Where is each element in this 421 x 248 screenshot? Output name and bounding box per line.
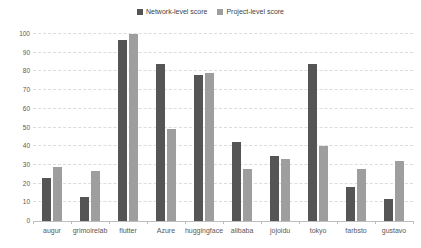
y-axis-tick-label-20: 20 [0, 181, 30, 188]
bar-augur-network [42, 178, 51, 221]
bar-grimoirelab-network [80, 197, 89, 221]
bar-augur-project [53, 167, 62, 221]
x-axis-tick-mark [147, 221, 148, 224]
bar-Azure-network [156, 64, 165, 221]
bar-series-container [33, 34, 413, 221]
x-axis-tick-mark [261, 221, 262, 224]
x-axis-category-label-Azure: Azure [147, 227, 185, 234]
x-axis-category-label-alibaba: alibaba [223, 227, 261, 234]
bar-group-Azure [147, 34, 185, 221]
x-axis-tick-mark [299, 221, 300, 224]
bar-farbsto-project [357, 169, 366, 221]
bar-tokyo-network [308, 64, 317, 221]
bar-group-tokyo [299, 34, 337, 221]
x-axis-category-label-grimoirelab: grimoirelab [71, 227, 109, 234]
bar-group-gustavo [375, 34, 413, 221]
bar-group-grimoirelab [71, 34, 109, 221]
x-axis-category-label-flutter: flutter [109, 227, 147, 234]
x-axis-category-label-augur: augur [33, 227, 71, 234]
legend-item-network-level: Network-level score [137, 8, 207, 15]
bar-grimoirelab-project [91, 171, 100, 221]
y-axis-tick-label-10: 10 [0, 199, 30, 206]
y-axis-tick-label-70: 70 [0, 87, 30, 94]
network-level-series-swatch-icon [137, 9, 143, 15]
x-axis-tick-mark [185, 221, 186, 224]
x-axis-category-label-tokyo: tokyo [299, 227, 337, 234]
bar-jojoidu-network [270, 156, 279, 221]
plot-area [33, 34, 413, 221]
legend-label-network-level: Network-level score [146, 8, 207, 15]
x-axis-labels: augurgrimoirelabflutterAzurehuggingfacea… [33, 227, 413, 234]
bar-huggingface-network [194, 75, 203, 221]
legend-label-project-level: Project-level score [226, 8, 284, 15]
bar-alibaba-project [243, 169, 252, 221]
bar-group-huggingface [185, 34, 223, 221]
bar-alibaba-network [232, 142, 241, 221]
bar-group-alibaba [223, 34, 261, 221]
bar-group-farbsto [337, 34, 375, 221]
project-level-series-swatch-icon [217, 9, 223, 15]
bar-gustavo-project [395, 161, 404, 221]
y-axis-tick-label-30: 30 [0, 162, 30, 169]
legend-item-project-level: Project-level score [217, 8, 284, 15]
x-axis-tick-mark [413, 221, 414, 224]
chart-legend: Network-level score Project-level score [0, 8, 421, 15]
bar-tokyo-project [319, 146, 328, 221]
x-axis-tick-mark [375, 221, 376, 224]
y-axis-tick-label-40: 40 [0, 143, 30, 150]
bar-chart: Network-level score Project-level score … [0, 0, 421, 248]
bar-flutter-project [129, 34, 138, 221]
y-axis-tick-label-100: 100 [0, 31, 30, 38]
x-axis-tick-mark [337, 221, 338, 224]
x-axis-category-label-jojoidu: jojoidu [261, 227, 299, 234]
x-axis-tick-mark [223, 221, 224, 224]
x-axis-tick-mark [33, 221, 34, 224]
y-axis-tick-label-60: 60 [0, 106, 30, 113]
bar-group-jojoidu [261, 34, 299, 221]
bar-flutter-network [118, 40, 127, 221]
bar-jojoidu-project [281, 159, 290, 221]
y-axis-tick-label-90: 90 [0, 50, 30, 57]
bar-Azure-project [167, 129, 176, 221]
y-axis-tick-label-80: 80 [0, 68, 30, 75]
y-axis-tick-label-0: 0 [0, 218, 30, 225]
y-axis-tick-label-50: 50 [0, 125, 30, 132]
bar-group-flutter [109, 34, 147, 221]
x-axis-category-label-huggingface: huggingface [185, 227, 223, 234]
x-axis-tick-mark [71, 221, 72, 224]
bar-farbsto-network [346, 187, 355, 221]
x-axis-tick-mark [109, 221, 110, 224]
x-axis-category-label-farbsto: farbsto [337, 227, 375, 234]
bar-huggingface-project [205, 73, 214, 221]
x-axis-category-label-gustavo: gustavo [375, 227, 413, 234]
bar-gustavo-network [384, 199, 393, 221]
bar-group-augur [33, 34, 71, 221]
